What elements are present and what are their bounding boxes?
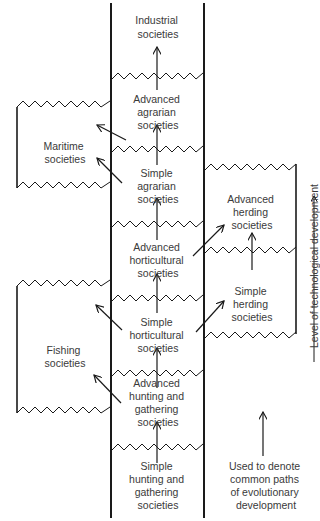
stage-simple-hunting-gathering: Simple hunting and gathering societies	[129, 460, 187, 511]
herding-box-divider	[205, 247, 296, 253]
arrow-to-fishing	[96, 305, 122, 330]
maritime-box-bottom	[17, 182, 110, 188]
stage-simple-horticultural: Simple horticultural societies	[129, 316, 186, 354]
arrow-to-simple-herding	[196, 301, 224, 332]
fishing-box-top	[17, 280, 110, 286]
simple-herding-box-bottom	[205, 332, 296, 338]
branch-simple-herding: Simple herding societies	[232, 285, 273, 323]
branch-fishing: Fishing societies	[45, 344, 86, 369]
arrow-to-fishing	[94, 375, 121, 403]
stage-advanced-agrarian: Advanced agrarian societies	[133, 93, 183, 131]
branch-advanced-herding: Advanced herding societies	[227, 193, 277, 231]
legend-text: Used to denote common paths of evolution…	[229, 460, 303, 511]
maritime-box-top	[17, 101, 110, 107]
stage-advanced-hunting-gathering: Advanced hunting and gathering societies	[129, 377, 187, 428]
arrow-to-maritime	[97, 158, 122, 183]
axis-label: Level of technological development	[308, 184, 320, 348]
stage-advanced-horticultural: Advanced horticultural societies	[129, 241, 186, 279]
evolution-diagram: Industrial societies Advanced agrarian s…	[0, 0, 320, 521]
stage-simple-agrarian: Simple agrarian societies	[137, 167, 178, 205]
stage-industrial: Industrial societies	[135, 14, 181, 40]
advanced-herding-box-top	[205, 164, 296, 170]
branch-maritime: Maritime societies	[43, 140, 86, 165]
fishing-box-bottom	[17, 407, 110, 413]
